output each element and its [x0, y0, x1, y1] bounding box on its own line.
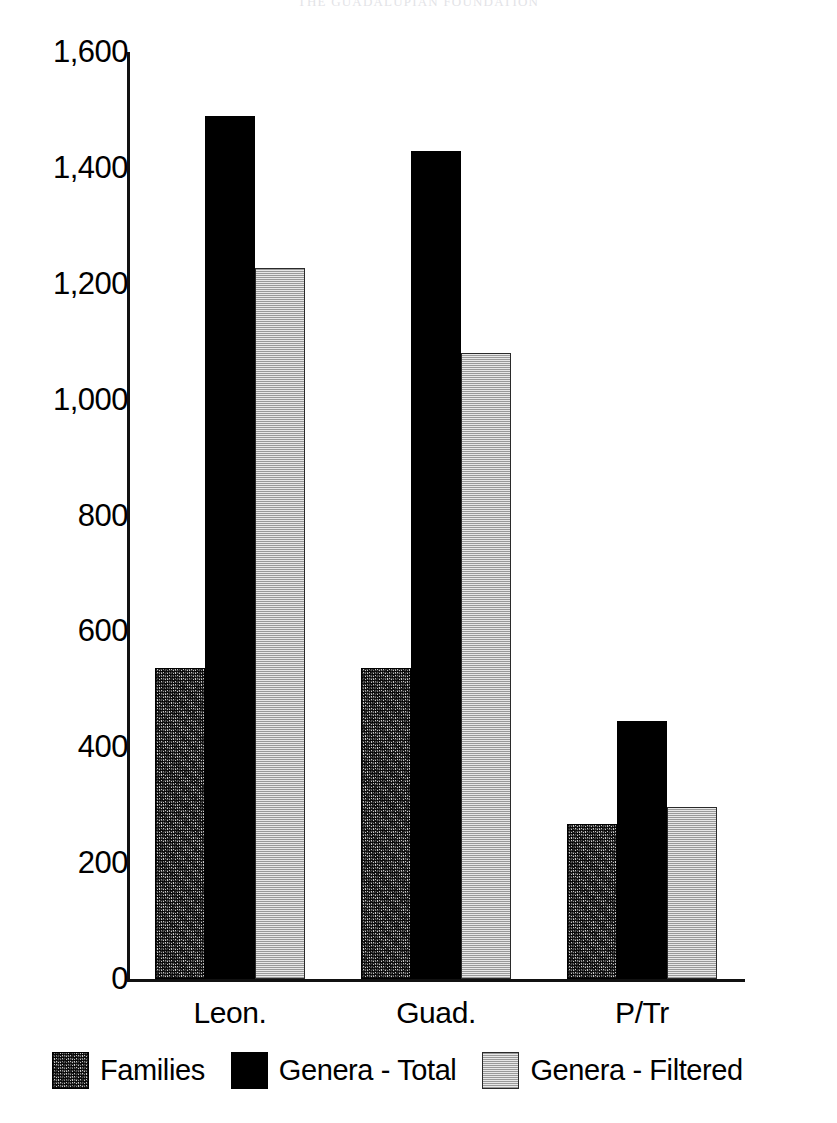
bar-chart-figure: 1,6001,4001,2001,0008006004002000 Leon.G… [0, 0, 837, 1123]
y-axis-tick-label: 400 [78, 731, 128, 762]
y-axis-tick-label: 600 [78, 615, 128, 646]
x-axis-tick-label: Leon. [130, 996, 330, 1030]
plot-area [127, 52, 745, 982]
bar-families [361, 668, 411, 979]
bar-genera-total [205, 116, 255, 979]
x-axis-line [127, 979, 745, 982]
y-axis-tick-label: 200 [78, 847, 128, 878]
y-axis-tick-label: 1,200 [53, 268, 128, 299]
chart-legend: FamiliesGenera - TotalGenera - Filtered [52, 1048, 812, 1092]
bar-families [155, 668, 205, 979]
y-axis-tick-label: 1,400 [53, 152, 128, 183]
legend-item: Genera - Filtered [482, 1052, 742, 1089]
bar-genera-total [411, 151, 461, 979]
legend-item: Genera - Total [231, 1052, 457, 1089]
bar-genera-filtered [461, 353, 511, 979]
y-axis-tick-label: 1,600 [53, 36, 128, 67]
bar-families [567, 824, 617, 979]
bar-genera-filtered [255, 268, 305, 979]
y-axis-tick-label: 1,000 [53, 384, 128, 415]
x-axis-tick-label: P/Tr [542, 996, 742, 1030]
y-axis-tick-label: 800 [78, 500, 128, 531]
y-axis-tick-label: 0 [111, 963, 128, 994]
y-axis-line [127, 52, 130, 982]
legend-label: Genera - Total [279, 1054, 457, 1087]
bar-genera-filtered [667, 807, 717, 979]
legend-swatch-filtered [482, 1052, 519, 1089]
legend-swatch-families [52, 1052, 89, 1089]
x-axis-tick-label: Guad. [336, 996, 536, 1030]
legend-item: Families [52, 1052, 205, 1089]
legend-label: Genera - Filtered [530, 1054, 742, 1087]
legend-swatch-total [231, 1052, 268, 1089]
bar-genera-total [617, 721, 667, 979]
legend-label: Families [100, 1054, 205, 1087]
